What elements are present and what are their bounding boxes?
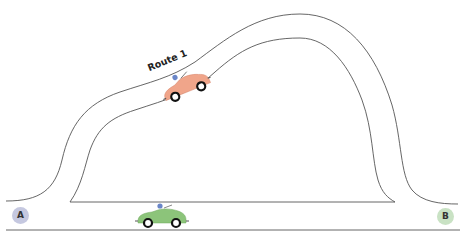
route-1-inner-edge: [70, 38, 395, 202]
start-node-a: A: [12, 207, 29, 224]
green-car-icon: [135, 203, 189, 227]
orange-car-icon: [156, 63, 213, 105]
end-node-b: B: [437, 208, 454, 225]
route-1-outer-edge: [6, 14, 458, 204]
road-map: [0, 0, 466, 238]
